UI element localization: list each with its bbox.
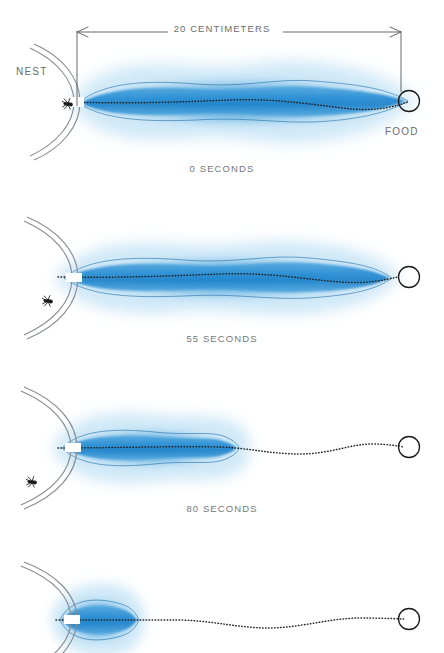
panel-55-graphic bbox=[0, 200, 444, 370]
panel-0-seconds: 20 CENTIMETERS NEST FOOD 0 SECONDS bbox=[0, 0, 444, 200]
food-marker bbox=[399, 267, 420, 288]
nest-entrance-gap bbox=[66, 273, 82, 282]
food-marker bbox=[399, 609, 420, 630]
dimension-label: 20 CENTIMETERS bbox=[0, 23, 444, 34]
ant-icon bbox=[42, 296, 52, 307]
nest-label: NEST bbox=[16, 66, 47, 77]
panel-55-caption: 55 SECONDS bbox=[0, 333, 444, 344]
panel-80-seconds: 80 SECONDS bbox=[0, 370, 444, 540]
panel-final bbox=[0, 540, 444, 653]
panel-80-graphic bbox=[0, 370, 444, 540]
panel-80-caption: 80 SECONDS bbox=[0, 503, 444, 514]
pheromone-core bbox=[80, 86, 406, 116]
nest-entrance-gap bbox=[64, 615, 80, 624]
food-label: FOOD bbox=[385, 126, 419, 137]
ant-icon bbox=[26, 477, 36, 488]
panel-0-caption: 0 SECONDS bbox=[0, 163, 444, 174]
pheromone-core bbox=[64, 436, 236, 460]
nest-entrance-gap bbox=[65, 443, 81, 452]
panel-55-seconds: 55 SECONDS bbox=[0, 200, 444, 370]
pheromone-decay-figure: 20 CENTIMETERS NEST FOOD 0 SECONDS bbox=[0, 0, 444, 653]
panel-final-graphic bbox=[0, 540, 444, 653]
pheromone-core bbox=[66, 262, 390, 292]
